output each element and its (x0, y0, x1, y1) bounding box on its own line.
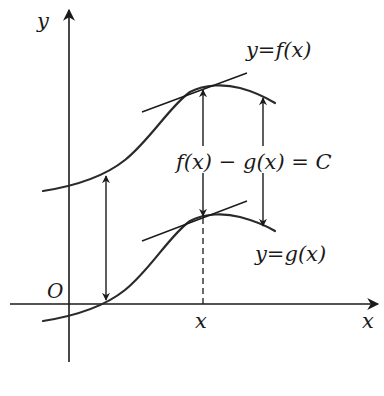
x-tick-label: x (195, 309, 207, 333)
curve-g (43, 214, 275, 321)
curve-f (43, 85, 275, 191)
diagram-canvas: y x O x y=f(x) y=g(x) f(x) − g(x) = C (0, 0, 384, 396)
origin-label: O (47, 279, 63, 303)
tangent-line-g (142, 201, 247, 241)
curve-f-label: y=f(x) (245, 38, 311, 62)
curve-g-label: y=g(x) (254, 242, 326, 266)
equation-label: f(x) − g(x) = C (174, 150, 332, 174)
x-axis-label: x (362, 309, 374, 333)
tangent-line-f (142, 73, 247, 112)
y-axis-label: y (36, 9, 50, 33)
